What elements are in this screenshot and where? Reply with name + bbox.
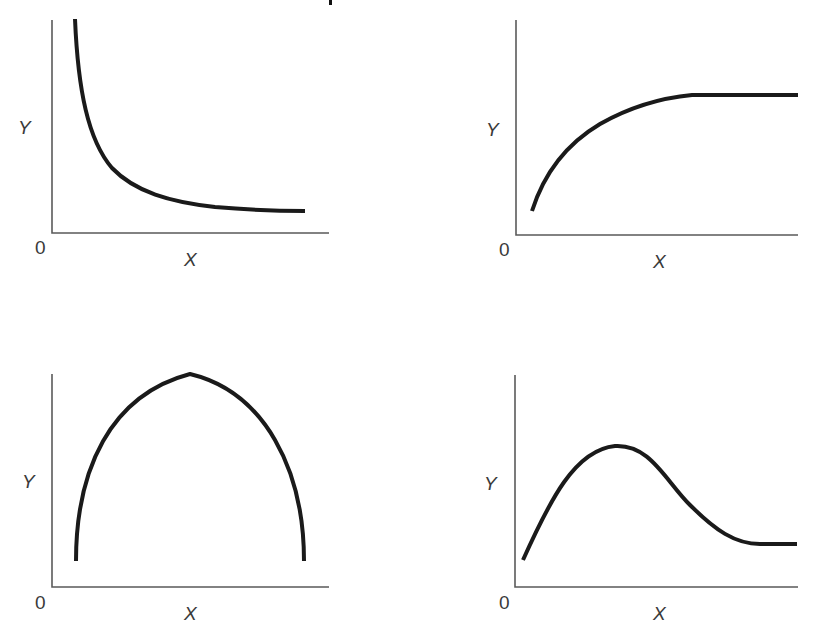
origin-label: 0 <box>499 592 510 613</box>
axes <box>52 374 329 587</box>
x-axis-label: X <box>183 249 198 270</box>
curve-peak-then-plateau <box>523 446 797 560</box>
y-axis-label: Y <box>22 471 36 492</box>
origin-label: 0 <box>35 237 46 258</box>
x-axis-label: X <box>652 251 667 272</box>
y-axis-label: Y <box>486 119 500 140</box>
panel-top-left: Y X 0 <box>18 19 329 270</box>
curve-saturating <box>532 95 798 211</box>
curve-inverted-u <box>76 374 304 561</box>
figure-canvas: Y X 0 Y X 0 Y X 0 Y X 0 <box>0 0 819 636</box>
curve-decreasing <box>75 19 305 211</box>
y-axis-label: Y <box>484 473 498 494</box>
axes <box>515 375 798 587</box>
panel-bottom-right: Y X 0 <box>484 375 798 624</box>
origin-label: 0 <box>499 239 510 260</box>
axes <box>52 20 329 233</box>
axes <box>516 20 798 235</box>
x-axis-label: X <box>652 603 667 624</box>
x-axis-label: X <box>183 603 198 624</box>
panel-bottom-left: Y X 0 <box>22 374 329 624</box>
origin-label: 0 <box>35 592 46 613</box>
panel-top-right: Y X 0 <box>486 20 798 272</box>
y-axis-label: Y <box>18 117 32 138</box>
title-fragment <box>329 0 332 5</box>
